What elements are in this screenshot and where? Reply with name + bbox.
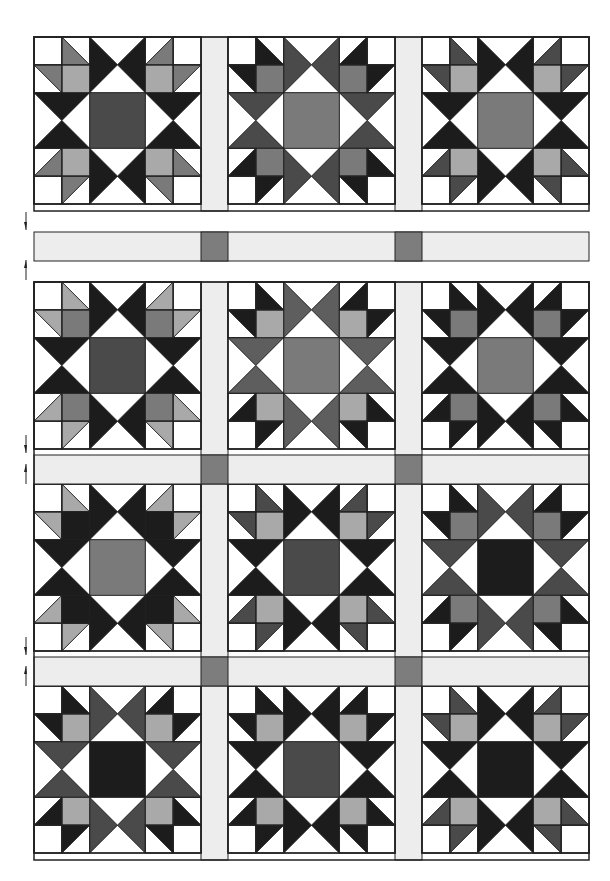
center-square [90, 338, 146, 394]
quilt-block [228, 37, 395, 204]
quilt-block [228, 282, 395, 449]
quilt-diagram [0, 0, 610, 881]
quilt-block [228, 686, 395, 853]
arrow-down-icon [24, 637, 27, 655]
arrow-up-icon [24, 464, 27, 484]
center-square [478, 338, 534, 394]
center-square [478, 93, 534, 149]
cornerstone [395, 455, 422, 484]
arrow-up-icon [24, 666, 27, 686]
center-square [284, 338, 340, 394]
quilt-block [34, 37, 201, 204]
center-square [90, 540, 146, 596]
center-square [90, 742, 146, 798]
vertical-sashing [201, 37, 228, 211]
quilt-block [34, 282, 201, 449]
quilt-block [34, 686, 201, 853]
quilt-block [228, 484, 395, 651]
center-square [478, 540, 534, 596]
quilt-block [34, 484, 201, 651]
vertical-sashing [201, 282, 228, 860]
cornerstone [201, 455, 228, 484]
center-square [284, 742, 340, 798]
center-square [478, 742, 534, 798]
arrow-up-icon [24, 260, 27, 280]
center-square [284, 540, 340, 596]
center-square [90, 93, 146, 149]
vertical-sashing [395, 282, 422, 860]
quilt-block [422, 686, 589, 853]
arrow-down-icon [24, 212, 27, 230]
horizontal-sashing-2 [34, 657, 589, 686]
separated-sashing-strip [34, 232, 589, 261]
horizontal-sashing-1 [34, 455, 589, 484]
center-square [284, 93, 340, 149]
quilt-block [422, 37, 589, 204]
arrow-down-icon [24, 435, 27, 453]
quilt-block [422, 282, 589, 449]
cornerstone [395, 657, 422, 686]
cornerstone [201, 657, 228, 686]
vertical-sashing [395, 37, 422, 211]
quilt-block [422, 484, 589, 651]
cornerstone [201, 232, 228, 261]
cornerstone [395, 232, 422, 261]
